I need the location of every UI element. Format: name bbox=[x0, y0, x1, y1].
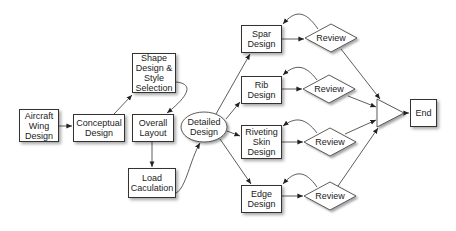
aircraft-wing-design-node: Aircraft Wing Design bbox=[19, 109, 59, 142]
node-label: Load Caculation bbox=[129, 173, 175, 193]
review-label-3: Review bbox=[310, 137, 350, 147]
riveting-skin-design-node: Riveting Skin Design bbox=[241, 125, 282, 159]
node-label: Overall Layout bbox=[133, 118, 173, 138]
end-node: End bbox=[410, 99, 437, 127]
merge-triangle bbox=[377, 99, 404, 127]
review-label-1: Review bbox=[311, 33, 351, 43]
node-label: Shape Design & Style Selection bbox=[133, 53, 175, 93]
node-label: Edge Design bbox=[242, 189, 281, 209]
edge-design-node: Edge Design bbox=[241, 185, 282, 213]
node-label: Aircraft Wing Design bbox=[20, 111, 58, 141]
conceptual-design-node: Conceptual Design bbox=[73, 114, 125, 142]
load-calculation-node: Load Caculation bbox=[128, 168, 176, 198]
detailed-design-label: Detailed Design bbox=[183, 115, 225, 139]
node-label: Riveting Skin Design bbox=[242, 127, 281, 157]
overall-layout-node: Overall Layout bbox=[132, 114, 174, 142]
node-label: Rib Design bbox=[242, 80, 281, 100]
node-label: Conceptual Design bbox=[74, 118, 124, 138]
shape-design-node: Shape Design & Style Selection bbox=[132, 53, 176, 93]
rib-design-node: Rib Design bbox=[241, 76, 282, 104]
node-label: Spar Design bbox=[242, 29, 281, 49]
spar-design-node: Spar Design bbox=[241, 25, 282, 53]
review-label-4: Review bbox=[310, 191, 350, 201]
review-label-2: Review bbox=[309, 84, 349, 94]
flowchart-connectors bbox=[0, 0, 456, 231]
node-label: End bbox=[415, 108, 431, 118]
